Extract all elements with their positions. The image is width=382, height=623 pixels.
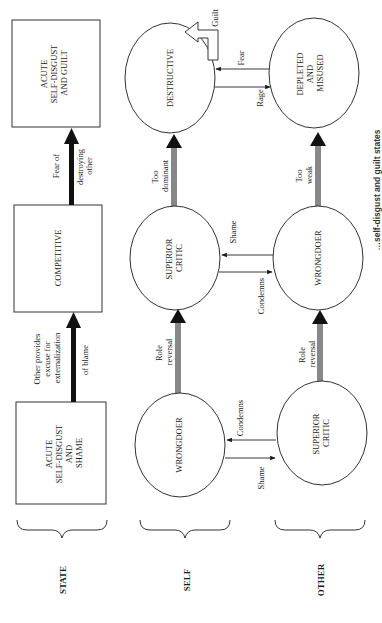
interaction-condemns-label: Condemns — [235, 400, 245, 436]
guilt-label: Guilt — [210, 9, 220, 27]
self-node-superior-critic-text: SUPERIOR CRITIC — [164, 236, 184, 279]
interaction-condemns-mid-label: Condemns — [256, 278, 266, 314]
brace-state — [17, 520, 107, 538]
svg-text:SELF: SELF — [182, 568, 192, 591]
self-node-wrongdoer-text: WRONGDOER — [174, 417, 184, 473]
interaction-fear-label: Fear — [236, 50, 246, 65]
state-arrow-2-label: Fear of — [51, 154, 61, 178]
state-arrow-2-label-b: destroying other — [75, 147, 94, 185]
state-box-guilt-text: ACUTE SELF-DISGUST AND GUILT — [39, 43, 69, 104]
interaction-shame-mid-label: Shame — [228, 220, 238, 243]
state-arrow-1-label: Other provides excuse for externalizatio… — [32, 332, 62, 385]
state-box-competitive-text: COMPETITIVE — [53, 230, 63, 287]
other-arrow-role-reversal-label: Role reversal — [297, 340, 317, 368]
row-label-state: STATE — [58, 566, 68, 594]
interaction-rage-label: Rage — [255, 89, 265, 107]
row-label-other: OTHER — [316, 563, 326, 596]
self-arrow-too-dominant-label: Too dominant — [150, 159, 170, 192]
figure-caption: …self-disgust and guilt states — [372, 129, 382, 250]
state-box-shame-text: ACUTE SELF-DISGUST AND SHAME — [44, 423, 84, 484]
diagram-canvas: STATE SELF OTHER ACUTE SELF-DISGUST AND … — [0, 0, 382, 623]
brace-other — [275, 520, 365, 538]
interaction-shame-label: Shame — [256, 466, 266, 489]
other-arrow-too-weak-label: Too weak — [294, 165, 314, 184]
state-arrow-1-label-tail: of blame — [80, 345, 90, 375]
other-node-depleted-text: DEPLETED AND MISUSED — [295, 50, 325, 95]
self-arrow-role-reversal-label: Role reversal — [154, 338, 174, 366]
other-node-wrongdoer-text: WRONGDOER — [313, 230, 323, 286]
self-node-destructive-text: DESTRUCTIVE — [165, 49, 175, 107]
svg-text:STATE: STATE — [58, 566, 68, 594]
row-label-self: SELF — [182, 568, 192, 591]
brace-self — [140, 520, 230, 538]
svg-text:OTHER: OTHER — [316, 563, 326, 596]
other-node-superior-critic-text: SUPERIOR CRITIC — [311, 411, 331, 454]
state-arrow-1 — [66, 312, 81, 402]
